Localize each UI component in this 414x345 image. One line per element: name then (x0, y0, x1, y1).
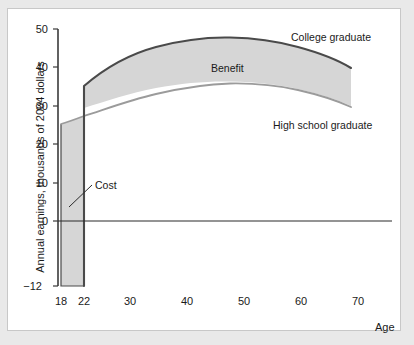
y-tick-label-neg12: −12 (16, 280, 42, 292)
top-cropped-artifact (96, 0, 216, 4)
y-tick-label-50: 50 (22, 23, 48, 35)
y-tick-label-40: 40 (22, 61, 48, 73)
x-axis-title: Age (375, 321, 395, 333)
x-tick-label-50: 50 (229, 295, 259, 307)
x-tick-label-70: 70 (343, 295, 373, 307)
y-tick-label-30: 30 (22, 100, 48, 112)
x-tick-label-40: 40 (172, 295, 202, 307)
y-tick-label-20: 20 (22, 138, 48, 150)
y-axis-title: Annual earnings, thousands of 2004 dolla… (34, 42, 46, 292)
x-tick-label-60: 60 (286, 295, 316, 307)
benefit-label: Benefit (211, 62, 244, 74)
earnings-area-chart (8, 9, 400, 330)
y-tick-label-0: 0 (22, 215, 48, 227)
figure-root: Annual earnings, thousands of 2004 dolla… (0, 0, 414, 345)
x-tick-label-22: 22 (69, 295, 99, 307)
high-school-graduate-label: High school graduate (273, 119, 372, 131)
y-tick-label-10: 10 (22, 177, 48, 189)
college-graduate-label: College graduate (291, 31, 371, 43)
cost-label: Cost (95, 179, 117, 191)
cost-area-shape (61, 116, 84, 286)
x-tick-label-30: 30 (115, 295, 145, 307)
chart-panel: Annual earnings, thousands of 2004 dolla… (7, 8, 401, 331)
